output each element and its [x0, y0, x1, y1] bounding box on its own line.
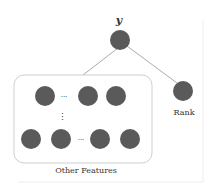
- feature-node: [90, 129, 110, 149]
- ellipsis-horizontal: ···: [61, 93, 68, 101]
- feature-node: [35, 86, 55, 106]
- edge-target-to-features: [83, 48, 118, 75]
- target-node: [110, 30, 130, 50]
- features-group-label: Other Features: [55, 166, 117, 175]
- feature-node: [21, 129, 41, 149]
- ellipsis-horizontal: ···: [78, 136, 85, 144]
- feature-node: [78, 86, 98, 106]
- feature-node: [106, 86, 126, 106]
- target-label: y: [115, 14, 124, 27]
- rank-node: [173, 81, 193, 101]
- rank-label: Rank: [174, 108, 195, 117]
- ellipsis-vertical: ⋮: [58, 112, 67, 122]
- feature-node: [51, 129, 71, 149]
- diagram-canvas: y Rank ··· ⋮ ··· Other Features: [0, 0, 213, 191]
- feature-node: [120, 129, 140, 149]
- edge-target-to-rank: [127, 46, 177, 83]
